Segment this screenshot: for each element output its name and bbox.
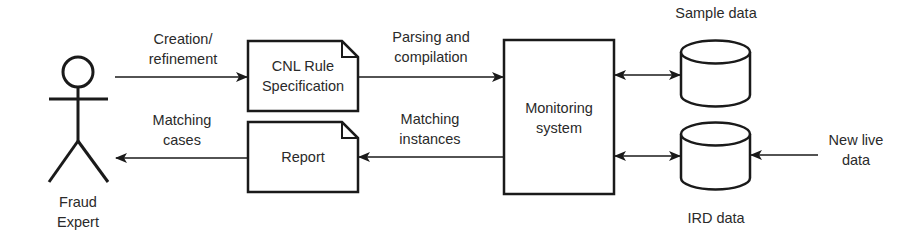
ird-data-label-text: IRD data — [687, 208, 744, 228]
ird-data-database-icon — [681, 123, 750, 190]
matching-cases-label-line2: cases — [153, 130, 212, 150]
fraud-expert-label-line1: Fraud — [57, 192, 99, 212]
sample-data-label: Sample data — [675, 3, 756, 23]
monitoring-system-label: Monitoring system — [525, 98, 593, 138]
parsing-compilation-label: Parsing and compilation — [392, 27, 469, 67]
actor-right-leg-icon — [78, 141, 108, 182]
sample-data-label-text: Sample data — [675, 3, 756, 23]
new-live-label-line1: New live — [829, 130, 884, 150]
new-live-data-label: New live data — [829, 130, 884, 170]
creation-label-line2: refinement — [149, 49, 218, 69]
monitoring-label-line1: Monitoring — [525, 98, 593, 118]
matching-instances-label: Matching instances — [399, 109, 460, 149]
ird-data-label: IRD data — [687, 208, 744, 228]
actor-left-leg-icon — [49, 141, 78, 182]
creation-label-line1: Creation/ — [149, 29, 218, 49]
creation-refinement-label: Creation/ refinement — [149, 29, 218, 69]
fraud-expert-actor-icon — [49, 57, 108, 182]
monitoring-label-line2: system — [525, 118, 593, 138]
matching-cases-label-line1: Matching — [153, 110, 212, 130]
fraud-expert-label: Fraud Expert — [57, 192, 99, 232]
actor-head-icon — [63, 57, 93, 87]
report-label: Report — [281, 147, 325, 167]
report-label-line1: Report — [281, 147, 325, 167]
new-live-label-line2: data — [829, 150, 884, 170]
sample-data-database-icon — [681, 41, 750, 107]
fraud-expert-label-line2: Expert — [57, 212, 99, 232]
cnl-rule-label-line2: Specification — [262, 76, 344, 96]
parsing-label-line1: Parsing and — [392, 27, 469, 47]
parsing-label-line2: compilation — [392, 47, 469, 67]
matching-instances-label-line1: Matching — [399, 109, 460, 129]
cnl-rule-label-line1: CNL Rule — [262, 56, 344, 76]
fraud-monitoring-diagram: Fraud Expert Creation/ refinement Matchi… — [0, 0, 923, 242]
cnl-rule-specification-label: CNL Rule Specification — [262, 56, 344, 96]
matching-cases-label: Matching cases — [153, 110, 212, 150]
matching-instances-label-line2: instances — [399, 129, 460, 149]
